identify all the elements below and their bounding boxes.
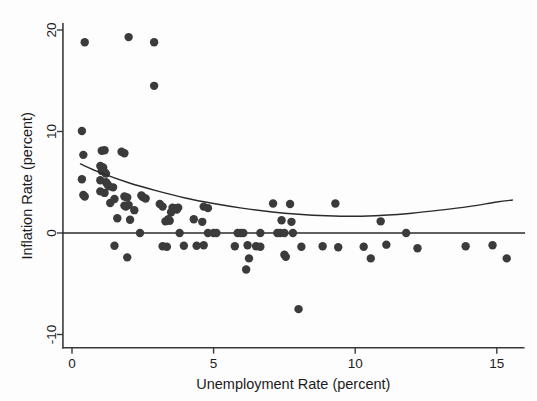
scatter-point	[106, 199, 114, 207]
scatter-point	[204, 204, 212, 212]
scatter-point	[256, 243, 264, 251]
scatter-point	[100, 146, 108, 154]
scatter-points-group	[78, 33, 511, 313]
scatter-point	[199, 241, 207, 249]
scatter-point	[78, 127, 86, 135]
scatter-point	[367, 254, 375, 262]
scatter-point	[282, 253, 290, 261]
scatter-point	[461, 242, 469, 250]
scatter-point	[231, 242, 239, 250]
scatter-point	[242, 265, 250, 273]
scatter-plot-svg: -1001020 051015 Unemployment Rate (perce…	[0, 0, 537, 401]
scatter-point	[382, 240, 390, 248]
scatter-point	[269, 199, 277, 207]
scatter-point	[286, 200, 294, 208]
quadratic-fit-curve	[81, 164, 513, 216]
scatter-point	[503, 254, 511, 262]
scatter-point	[488, 241, 496, 249]
y-axis-title: Inflation Rate (percent)	[19, 112, 35, 259]
scatter-point	[124, 33, 132, 41]
plot-axes	[57, 24, 524, 354]
scatter-point	[123, 193, 131, 201]
y-tick-label: -10	[44, 325, 59, 345]
scatter-point	[136, 229, 144, 237]
y-axis-tick-labels: -1001020	[44, 22, 59, 344]
scatter-point	[130, 206, 138, 214]
x-tick-label: 0	[68, 356, 76, 371]
scatter-point	[294, 305, 302, 313]
scatter-point	[402, 229, 410, 237]
x-tick-label: 10	[348, 356, 363, 371]
scatter-point	[110, 241, 118, 249]
scatter-point	[289, 229, 297, 237]
scatter-point	[256, 229, 264, 237]
y-axis-ticks	[57, 30, 63, 335]
scatter-point	[198, 218, 206, 226]
y-tick-label: 20	[44, 22, 59, 37]
scatter-point	[175, 229, 183, 237]
scatter-point	[78, 175, 86, 183]
scatter-point	[126, 216, 134, 224]
scatter-point	[81, 38, 89, 46]
x-tick-label: 5	[210, 356, 218, 371]
scatter-point	[277, 216, 285, 224]
x-tick-label: 15	[489, 356, 504, 371]
scatter-point	[212, 229, 220, 237]
scatter-point	[113, 214, 121, 222]
x-axis-ticks	[72, 348, 497, 354]
y-tick-label: 10	[44, 124, 59, 139]
x-axis-tick-labels: 051015	[68, 356, 504, 371]
chart-figure: -1001020 051015 Unemployment Rate (perce…	[0, 0, 537, 401]
scatter-point	[359, 243, 367, 251]
scatter-point	[81, 192, 89, 200]
scatter-point	[334, 243, 342, 251]
scatter-point	[163, 243, 171, 251]
scatter-point	[280, 229, 288, 237]
scatter-point	[413, 244, 421, 252]
scatter-point	[150, 38, 158, 46]
scatter-point	[331, 199, 339, 207]
scatter-point	[158, 202, 166, 210]
scatter-point	[79, 151, 87, 159]
scatter-point	[141, 194, 149, 202]
scatter-point	[166, 217, 174, 225]
y-tick-label: 0	[44, 229, 59, 237]
scatter-point	[190, 215, 198, 223]
scatter-point	[100, 189, 108, 197]
x-axis-title: Unemployment Rate (percent)	[196, 376, 390, 392]
scatter-point	[287, 218, 295, 226]
scatter-point	[376, 217, 384, 225]
scatter-point	[239, 229, 247, 237]
scatter-point	[297, 243, 305, 251]
scatter-point	[174, 203, 182, 211]
scatter-point	[180, 241, 188, 249]
scatter-point	[123, 253, 131, 261]
scatter-point	[120, 149, 128, 157]
scatter-point	[109, 183, 117, 191]
scatter-point	[245, 254, 253, 262]
scatter-point	[150, 82, 158, 90]
scatter-point	[243, 241, 251, 249]
scatter-point	[318, 242, 326, 250]
